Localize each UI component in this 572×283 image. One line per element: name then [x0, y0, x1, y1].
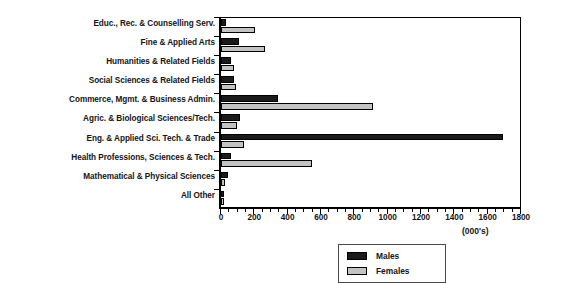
x-axis-tick-label: 600: [314, 213, 328, 222]
y-axis-tick: [214, 170, 220, 171]
legend-label-males: Males: [376, 251, 399, 261]
y-axis-tick: [214, 112, 220, 113]
x-axis-tick-label: 1400: [445, 213, 463, 222]
category-label: Commerce, Mgmt. & Business Admin.: [69, 95, 215, 104]
bar-males: [221, 153, 231, 160]
x-axis-minor-tick: [337, 209, 338, 212]
category-label: Social Sciences & Related Fields: [89, 76, 215, 85]
bar-females: [221, 198, 224, 205]
x-axis-minor-tick: [462, 209, 463, 212]
bar-males: [221, 38, 239, 45]
y-axis-tick: [214, 74, 220, 75]
bar-males: [221, 57, 231, 64]
bar-females: [221, 141, 244, 148]
x-axis-minor-tick: [270, 209, 271, 212]
x-axis-units-label: (000's): [462, 226, 489, 236]
x-axis-minor-tick: [370, 209, 371, 212]
category-label: Educ., Rec. & Counselling Serv.: [93, 19, 215, 28]
bar-females: [221, 27, 255, 34]
x-axis-minor-tick: [437, 209, 438, 212]
x-axis-minor-tick: [412, 209, 413, 212]
category-row: Commerce, Mgmt. & Business Admin.: [0, 93, 572, 112]
category-row: Mathematical & Physical Sciences: [0, 170, 572, 189]
x-axis-minor-tick: [470, 209, 471, 212]
bar-chart: Educ., Rec. & Counselling Serv.Fine & Ap…: [0, 0, 572, 283]
y-axis-tick: [214, 36, 220, 37]
category-label: Mathematical & Physical Sciences: [83, 172, 215, 181]
x-axis-minor-tick: [345, 209, 346, 212]
bar-females: [221, 160, 312, 167]
y-axis-tick: [214, 151, 220, 152]
category-label: Fine & Applied Arts: [141, 38, 215, 47]
x-axis-minor-tick: [503, 209, 504, 212]
legend-item-males: Males: [347, 248, 445, 263]
category-row: All Other: [0, 189, 572, 208]
category-row: Health Professions, Sciences & Tech.: [0, 151, 572, 170]
x-axis-tick-label: 1600: [479, 213, 497, 222]
category-row: Eng. & Applied Sci. Tech. & Trade: [0, 132, 572, 151]
bar-females: [221, 179, 225, 186]
category-label: Eng. & Applied Sci. Tech. & Trade: [87, 134, 215, 143]
bar-males: [221, 191, 224, 198]
chart-legend: Males Females: [338, 244, 446, 283]
legend-label-females: Females: [376, 266, 410, 276]
x-axis-minor-tick: [512, 209, 513, 212]
x-axis-minor-tick: [328, 209, 329, 212]
x-axis-tick-label: 1200: [412, 213, 430, 222]
x-axis-tick-label: 1000: [379, 213, 397, 222]
bar-males: [221, 114, 240, 121]
bar-females: [221, 65, 234, 72]
category-row: Social Sciences & Related Fields: [0, 74, 572, 93]
bar-males: [221, 19, 226, 26]
y-axis-tick: [214, 189, 220, 190]
x-axis-tick-label: 1800: [512, 213, 530, 222]
x-axis-tick-label: 0: [219, 213, 224, 222]
bar-males: [221, 134, 503, 141]
x-axis-minor-tick: [303, 209, 304, 212]
y-axis-tick: [214, 132, 220, 133]
y-axis-tick: [214, 93, 220, 94]
x-axis-minor-tick: [245, 209, 246, 212]
category-row: Humanities & Related Fields: [0, 55, 572, 74]
x-axis-tick-label: 200: [247, 213, 261, 222]
x-axis-minor-tick: [445, 209, 446, 212]
bar-females: [221, 122, 237, 129]
bar-females: [221, 46, 265, 53]
x-axis-minor-tick: [378, 209, 379, 212]
x-axis-minor-tick: [428, 209, 429, 212]
category-row: Fine & Applied Arts: [0, 36, 572, 55]
x-axis-minor-tick: [262, 209, 263, 212]
bar-males: [221, 76, 234, 83]
x-axis-minor-tick: [395, 209, 396, 212]
category-rows: Educ., Rec. & Counselling Serv.Fine & Ap…: [0, 17, 572, 208]
x-axis-minor-tick: [312, 209, 313, 212]
x-axis-tick-label: 800: [347, 213, 361, 222]
category-row: Educ., Rec. & Counselling Serv.: [0, 17, 572, 36]
x-axis-minor-tick: [295, 209, 296, 212]
bar-females: [221, 84, 236, 91]
x-axis-tick-label: 400: [281, 213, 295, 222]
y-axis-tick: [214, 55, 220, 56]
x-axis-minor-tick: [362, 209, 363, 212]
bar-males: [221, 172, 228, 179]
legend-swatch-males-icon: [347, 252, 367, 260]
y-axis-tick: [214, 17, 220, 18]
legend-swatch-females-icon: [347, 267, 367, 275]
x-axis-minor-tick: [228, 209, 229, 212]
bar-males: [221, 95, 278, 102]
category-label: All Other: [181, 191, 215, 200]
category-label: Humanities & Related Fields: [106, 57, 215, 66]
legend-item-females: Females: [347, 263, 445, 278]
x-axis-minor-tick: [237, 209, 238, 212]
x-axis-minor-tick: [495, 209, 496, 212]
category-row: Agric. & Biological Sciences/Tech.: [0, 112, 572, 131]
bar-females: [221, 103, 373, 110]
category-label: Agric. & Biological Sciences/Tech.: [83, 114, 215, 123]
category-label: Health Professions, Sciences & Tech.: [71, 153, 215, 162]
x-axis-minor-tick: [478, 209, 479, 212]
x-axis-minor-tick: [403, 209, 404, 212]
x-axis-minor-tick: [278, 209, 279, 212]
